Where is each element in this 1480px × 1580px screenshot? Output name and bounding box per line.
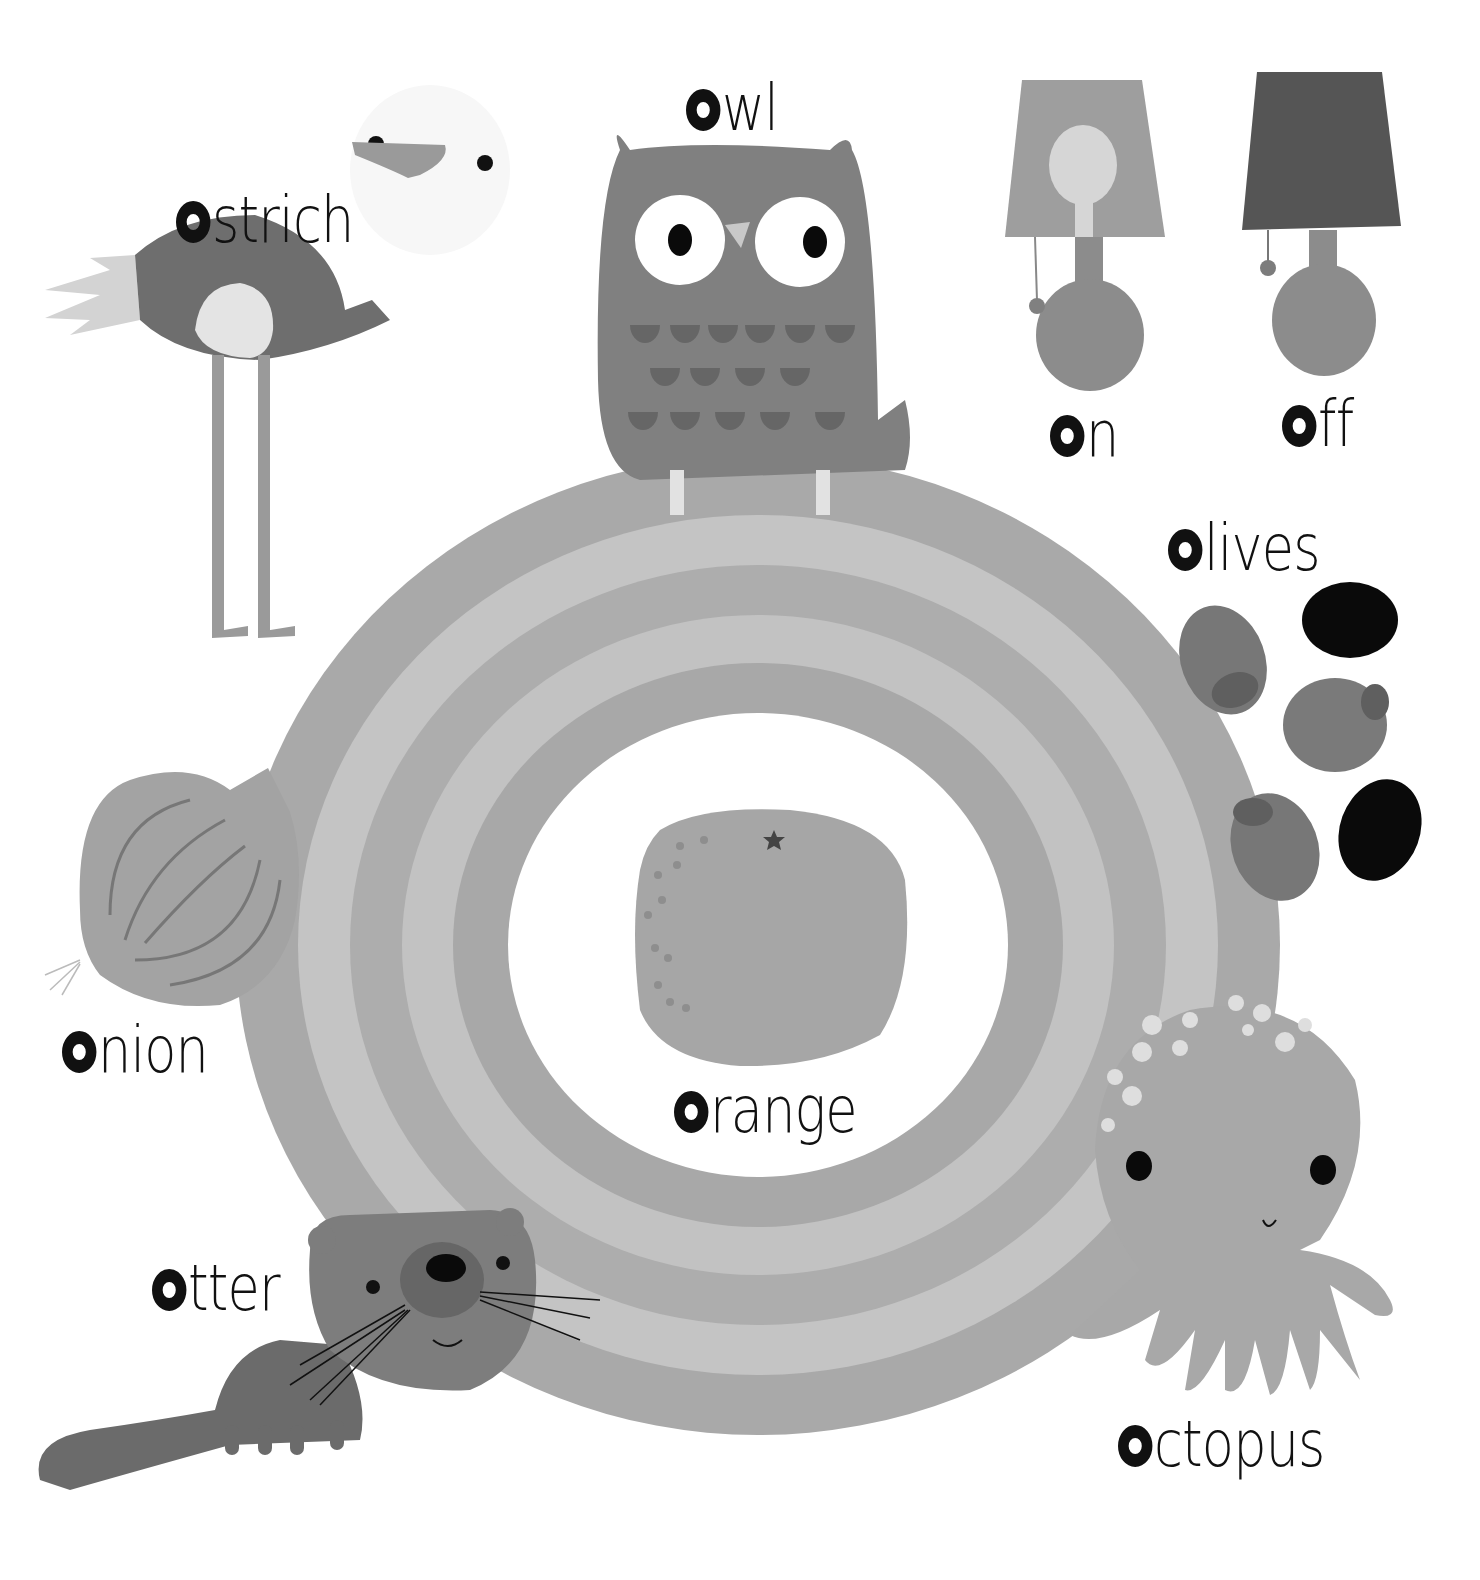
- word-otter-text: tter: [188, 1251, 280, 1325]
- word-otter: tter: [152, 1256, 280, 1320]
- word-onion: nion: [62, 1018, 208, 1082]
- word-owl: wl: [686, 76, 778, 140]
- letter-o-mark: [686, 89, 720, 131]
- letter-o-mark: [1282, 405, 1316, 447]
- letter-o-mark: [152, 1269, 186, 1311]
- onion-illustration: [45, 768, 299, 1006]
- letter-o-mark: [176, 201, 210, 243]
- letter-o-mark: [62, 1031, 96, 1073]
- orange-illustration: [635, 809, 907, 1066]
- owl-illustration: [598, 135, 910, 515]
- word-octopus: ctopus: [1118, 1412, 1325, 1476]
- word-onion-text: nion: [98, 1013, 208, 1087]
- letter-o-mark: [1050, 415, 1084, 457]
- ostrich-illustration: [45, 85, 510, 638]
- word-on-text: n: [1086, 397, 1118, 471]
- letter-o-mark: [674, 1091, 708, 1133]
- word-owl-text: wl: [722, 71, 778, 145]
- lamp-on-illustration: [1005, 80, 1165, 391]
- letter-o-mark: [1168, 529, 1202, 571]
- word-ostrich-text: strich: [212, 183, 353, 257]
- word-octopus-text: ctopus: [1154, 1407, 1325, 1481]
- word-orange: range: [674, 1078, 857, 1142]
- letter-o-mark: [1118, 1425, 1152, 1467]
- word-orange-text: range: [710, 1073, 857, 1147]
- word-ostrich: strich: [176, 188, 353, 252]
- word-olives: lives: [1168, 516, 1320, 580]
- word-off-text: ff: [1318, 387, 1353, 461]
- lamp-off-illustration: [1242, 72, 1401, 376]
- word-off: ff: [1282, 392, 1353, 456]
- word-on: n: [1050, 402, 1119, 466]
- otter-illustration: [39, 1208, 600, 1490]
- word-olives-text: lives: [1204, 511, 1320, 585]
